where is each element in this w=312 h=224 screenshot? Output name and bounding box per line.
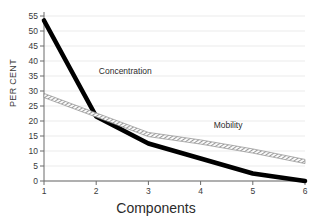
x-tick-label: 3 [138,186,158,196]
y-tick-label: 5 [16,161,38,171]
y-tick-label: 20 [16,116,38,126]
gridlines [44,16,305,181]
y-tick-label: 25 [16,101,38,111]
series-concentration [44,21,305,182]
series-label-concentration: Concentration [99,66,152,76]
x-axis-title: Components [0,200,312,216]
x-tick-label: 4 [191,186,211,196]
y-tick-label: 10 [16,146,38,156]
y-tick-label: 45 [16,41,38,51]
y-tick-label: 30 [16,86,38,96]
y-tick-label: 0 [16,176,38,186]
y-tick-label: 40 [16,56,38,66]
data-series [44,21,305,182]
x-tick-label: 5 [243,186,263,196]
x-tick-label: 2 [86,186,106,196]
x-tick-label: 6 [295,186,312,196]
y-tick-label: 35 [16,71,38,81]
series-label-mobility: Mobility [214,120,243,130]
chart-figure: PER CENT Components 05101520253035404550… [0,0,312,224]
y-tick-label: 15 [16,131,38,141]
y-tick-label: 50 [16,26,38,36]
tick-marks [40,16,305,185]
y-tick-label: 55 [16,11,38,21]
x-tick-label: 1 [34,186,54,196]
